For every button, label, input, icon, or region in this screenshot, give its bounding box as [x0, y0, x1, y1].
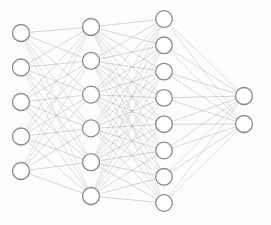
- node-hidden-layer-1-4: [83, 120, 100, 137]
- node-hidden-layer-2-7: [156, 169, 173, 186]
- node-hidden-layer-1-2: [83, 52, 100, 69]
- neural-network-diagram: [0, 0, 271, 225]
- node-input-layer-4: [13, 128, 30, 145]
- node-input-layer-2: [13, 59, 30, 76]
- layer-output-layer: [236, 88, 253, 133]
- layer-input-layer: [13, 25, 30, 180]
- edge-input-to-hidden1-0-0: [29, 28, 82, 33]
- edge-hidden1-to-hidden2-0-7: [94, 35, 161, 195]
- edge-input-to-hidden1-3-4: [29, 139, 83, 159]
- edge-hidden2-to-output-7-0: [169, 103, 239, 197]
- layer-hidden-layer-2: [156, 11, 173, 212]
- edge-hidden2-to-output-7-1: [170, 130, 238, 197]
- edge-hidden2-to-output-0-0: [170, 25, 238, 90]
- edge-hidden2-to-output-5-1: [172, 127, 236, 148]
- edge-hidden2-to-output-2-0: [172, 74, 236, 94]
- edge-input-to-hidden1-1-0: [28, 31, 83, 63]
- edge-input-to-hidden1-1-2: [29, 71, 83, 92]
- edge-hidden1-to-hidden2-5-7: [99, 197, 155, 202]
- edge-bundle-input-to-hidden1: [24, 28, 87, 193]
- edge-input-to-hidden1-2-3: [29, 105, 83, 125]
- node-hidden-layer-2-2: [156, 37, 173, 54]
- node-hidden-layer-1-6: [83, 188, 100, 205]
- node-hidden-layer-1-5: [83, 154, 100, 171]
- edge-hidden2-to-output-1-1: [170, 51, 238, 118]
- edge-hidden1-to-hidden2-1-1: [99, 47, 156, 59]
- edge-bundle-hidden2-to-output: [169, 25, 239, 197]
- edge-input-to-hidden1-2-0: [27, 33, 85, 96]
- edge-hidden2-to-output-5-0: [171, 101, 237, 146]
- node-input-layer-3: [13, 94, 30, 111]
- edge-hidden2-to-output-0-1: [169, 26, 239, 118]
- edge-hidden1-to-hidden2-1-0: [98, 23, 156, 56]
- node-hidden-layer-2-3: [156, 63, 173, 80]
- layer-hidden-layer-1: [83, 19, 100, 205]
- edge-hidden2-to-output-6-0: [170, 102, 238, 171]
- edge-input-to-hidden1-0-3: [26, 40, 86, 122]
- edge-input-to-hidden1-4-5: [29, 174, 83, 193]
- node-hidden-layer-2-8: [156, 195, 173, 212]
- edge-hidden1-to-hidden2-3-6: [98, 133, 157, 172]
- edge-input-to-hidden1-4-4: [29, 163, 82, 170]
- node-hidden-layer-2-1: [156, 11, 173, 28]
- edge-hidden1-to-hidden2-1-7: [95, 68, 160, 195]
- node-output-layer-2: [236, 116, 253, 133]
- edge-hidden1-to-hidden2-2-0: [97, 25, 158, 89]
- node-hidden-layer-2-6: [156, 142, 173, 159]
- node-input-layer-1: [13, 25, 30, 42]
- node-output-layer-1: [236, 88, 253, 105]
- edges-group: [24, 20, 239, 202]
- edge-hidden1-to-hidden2-5-0: [94, 27, 161, 188]
- edge-hidden1-to-hidden2-0-2: [98, 31, 157, 67]
- node-hidden-layer-1-3: [83, 86, 100, 103]
- edge-hidden1-to-hidden2-3-2: [98, 77, 158, 123]
- edge-bundle-hidden1-to-hidden2: [94, 20, 161, 202]
- node-hidden-layer-2-4: [156, 90, 173, 107]
- edge-hidden1-to-hidden2-0-0: [99, 20, 155, 26]
- node-hidden-layer-2-5: [156, 116, 173, 133]
- edge-hidden1-to-hidden2-2-3: [99, 95, 155, 98]
- edge-input-to-hidden1-4-2: [27, 101, 86, 165]
- edge-hidden2-to-output-1-0: [171, 50, 237, 92]
- edge-hidden1-to-hidden2-3-7: [97, 134, 158, 197]
- node-hidden-layer-1-1: [83, 19, 100, 36]
- node-input-layer-5: [13, 163, 30, 180]
- edge-hidden1-to-hidden2-3-4: [99, 125, 155, 128]
- network-canvas: [0, 0, 271, 225]
- edge-hidden2-to-output-6-1: [171, 129, 237, 173]
